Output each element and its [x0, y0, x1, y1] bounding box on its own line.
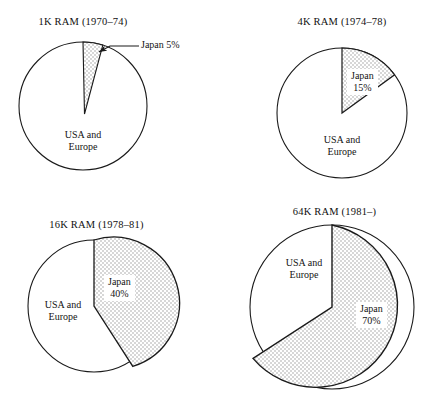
- pie-2-japan-name: Japan: [351, 70, 374, 81]
- pie-3-japan-label: Japan 40%: [104, 275, 135, 301]
- pie-1-japan-slice: [83, 42, 103, 114]
- pie-3-usa-europe-line1: USA and: [45, 299, 81, 310]
- pie-2-title: 4K RAM (1974–78): [272, 16, 412, 27]
- pie-4-usa-europe-line2: Europe: [290, 269, 319, 280]
- pie-3-usa-europe-line2: Europe: [49, 311, 78, 322]
- pie-2-japan-pct: 15%: [353, 82, 371, 93]
- pie-1-usa-europe-line1: USA and: [65, 129, 101, 140]
- pie-graphics-layer: [0, 0, 436, 406]
- pie-1-japan-callout-label: Japan 5%: [141, 39, 180, 50]
- pie-2-usa-europe-line2: Europe: [328, 146, 357, 157]
- pie-2-usa-europe-line1: USA and: [324, 134, 360, 145]
- pie-4-japan-name: Japan: [360, 303, 383, 314]
- pie-4-circle: [250, 225, 414, 389]
- pie-4-usa-europe-line1: USA and: [286, 257, 322, 268]
- pie-4-japan-pct: 70%: [362, 315, 380, 326]
- pie-3-usa-europe-label: USA and Europe: [30, 299, 96, 322]
- pie-2-usa-europe-label: USA and Europe: [309, 134, 375, 157]
- pie-3-japan-slice: [94, 237, 179, 366]
- pie-2-japan-label: Japan 15%: [347, 69, 378, 95]
- pie-3-japan-name: Japan: [108, 276, 131, 287]
- pie-3-japan-pct: 40%: [110, 288, 128, 299]
- pie-2-graphics: [277, 48, 407, 178]
- pie-1-title: 1K RAM (1970–74): [18, 16, 148, 27]
- pie-1-callout-leader-line: [99, 46, 139, 52]
- pie-4-graphics: [250, 225, 414, 389]
- pie-4-title: 64K RAM (1981–): [262, 206, 407, 217]
- pie-1-usa-europe-line2: Europe: [69, 141, 98, 152]
- pie-chart-figure: 1K RAM (1970–74) Japan 5% USA and Europe…: [0, 0, 436, 406]
- pie-3-title: 16K RAM (1978–81): [24, 219, 169, 230]
- pie-2-circle: [277, 48, 407, 178]
- pie-1-usa-europe-label: USA and Europe: [50, 129, 116, 152]
- pie-4-usa-europe-label: USA and Europe: [271, 257, 337, 280]
- pie-4-japan-label: Japan 70%: [356, 302, 387, 328]
